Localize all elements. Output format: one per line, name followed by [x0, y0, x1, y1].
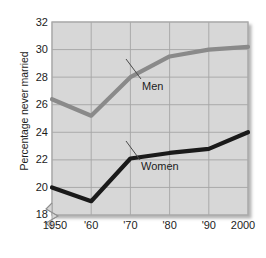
x-axis-tick-labels: 1950 '60 '70 '80 '90 2000 — [0, 219, 266, 239]
y-tick-label: 22 — [22, 154, 48, 165]
series-label-women: Women — [141, 160, 179, 172]
y-tick-label: 24 — [22, 127, 48, 138]
x-tick-label: 1950 — [43, 219, 67, 231]
series-label-men: Men — [142, 80, 163, 92]
x-tick-label: '80 — [162, 219, 176, 231]
y-tick-label: 32 — [22, 17, 48, 28]
chart-container: Percentage never married 32 30 28 26 24 … — [0, 0, 266, 258]
y-tick-label: 30 — [22, 44, 48, 55]
x-tick-label: '60 — [84, 219, 98, 231]
y-tick-label: 28 — [22, 72, 48, 83]
x-tick-label: 2000 — [231, 219, 255, 231]
y-tick-label: 20 — [22, 182, 48, 193]
x-tick-label: '70 — [123, 219, 137, 231]
y-tick-label: 26 — [22, 99, 48, 110]
x-tick-label: '90 — [202, 219, 216, 231]
